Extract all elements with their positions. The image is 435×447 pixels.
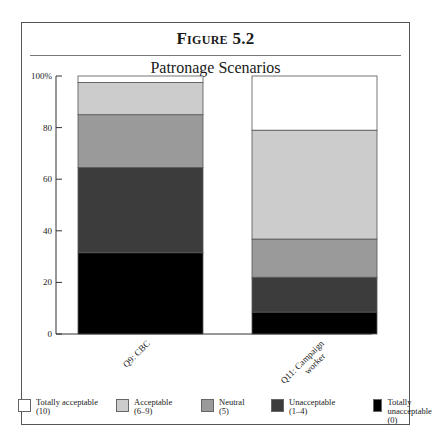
legend-label: Unacceptable (1–4) [289, 398, 335, 416]
y-tick-label: 100% [31, 71, 53, 81]
bar-segment [78, 76, 203, 82]
bar-segment [252, 277, 377, 312]
legend-swatch [271, 399, 284, 412]
y-tick-label: 80 [43, 123, 53, 133]
legend-item: Unacceptable (1–4) [271, 398, 335, 416]
bar-segment [78, 168, 203, 253]
bar-segment [252, 239, 377, 277]
legend-label: Totally unacceptable (0) [387, 398, 435, 425]
bar-segment [78, 82, 203, 114]
y-tick-label: 60 [43, 174, 53, 184]
y-tick-label: 0 [48, 329, 53, 339]
y-tick-label: 20 [43, 277, 53, 287]
legend-item: Neutral (5) [201, 398, 245, 416]
legend-item: Totally acceptable (10) [18, 398, 98, 416]
bar-segment [78, 115, 203, 168]
bar-segment [252, 76, 377, 130]
bar-segment [252, 312, 377, 334]
legend-item: Acceptable (6–9) [116, 398, 172, 416]
legend-swatch [201, 399, 214, 412]
bar-segment [252, 130, 377, 239]
legend-item: Totally unacceptable (0) [373, 398, 435, 425]
legend-swatch [373, 399, 382, 412]
legend-label: Acceptable (6–9) [134, 398, 172, 416]
bar-segment [78, 253, 203, 334]
y-tick-label: 40 [43, 226, 53, 236]
x-tick-label: Q9: CBC [121, 338, 152, 369]
x-tick-label: Q11: Campaignworker [279, 338, 334, 393]
legend-label: Neutral (5) [219, 398, 245, 416]
legend-swatch [116, 399, 129, 412]
legend-label: Totally acceptable (10) [36, 398, 98, 416]
legend-swatch [18, 399, 31, 412]
legend: Totally acceptable (10)Acceptable (6–9)N… [18, 398, 418, 422]
